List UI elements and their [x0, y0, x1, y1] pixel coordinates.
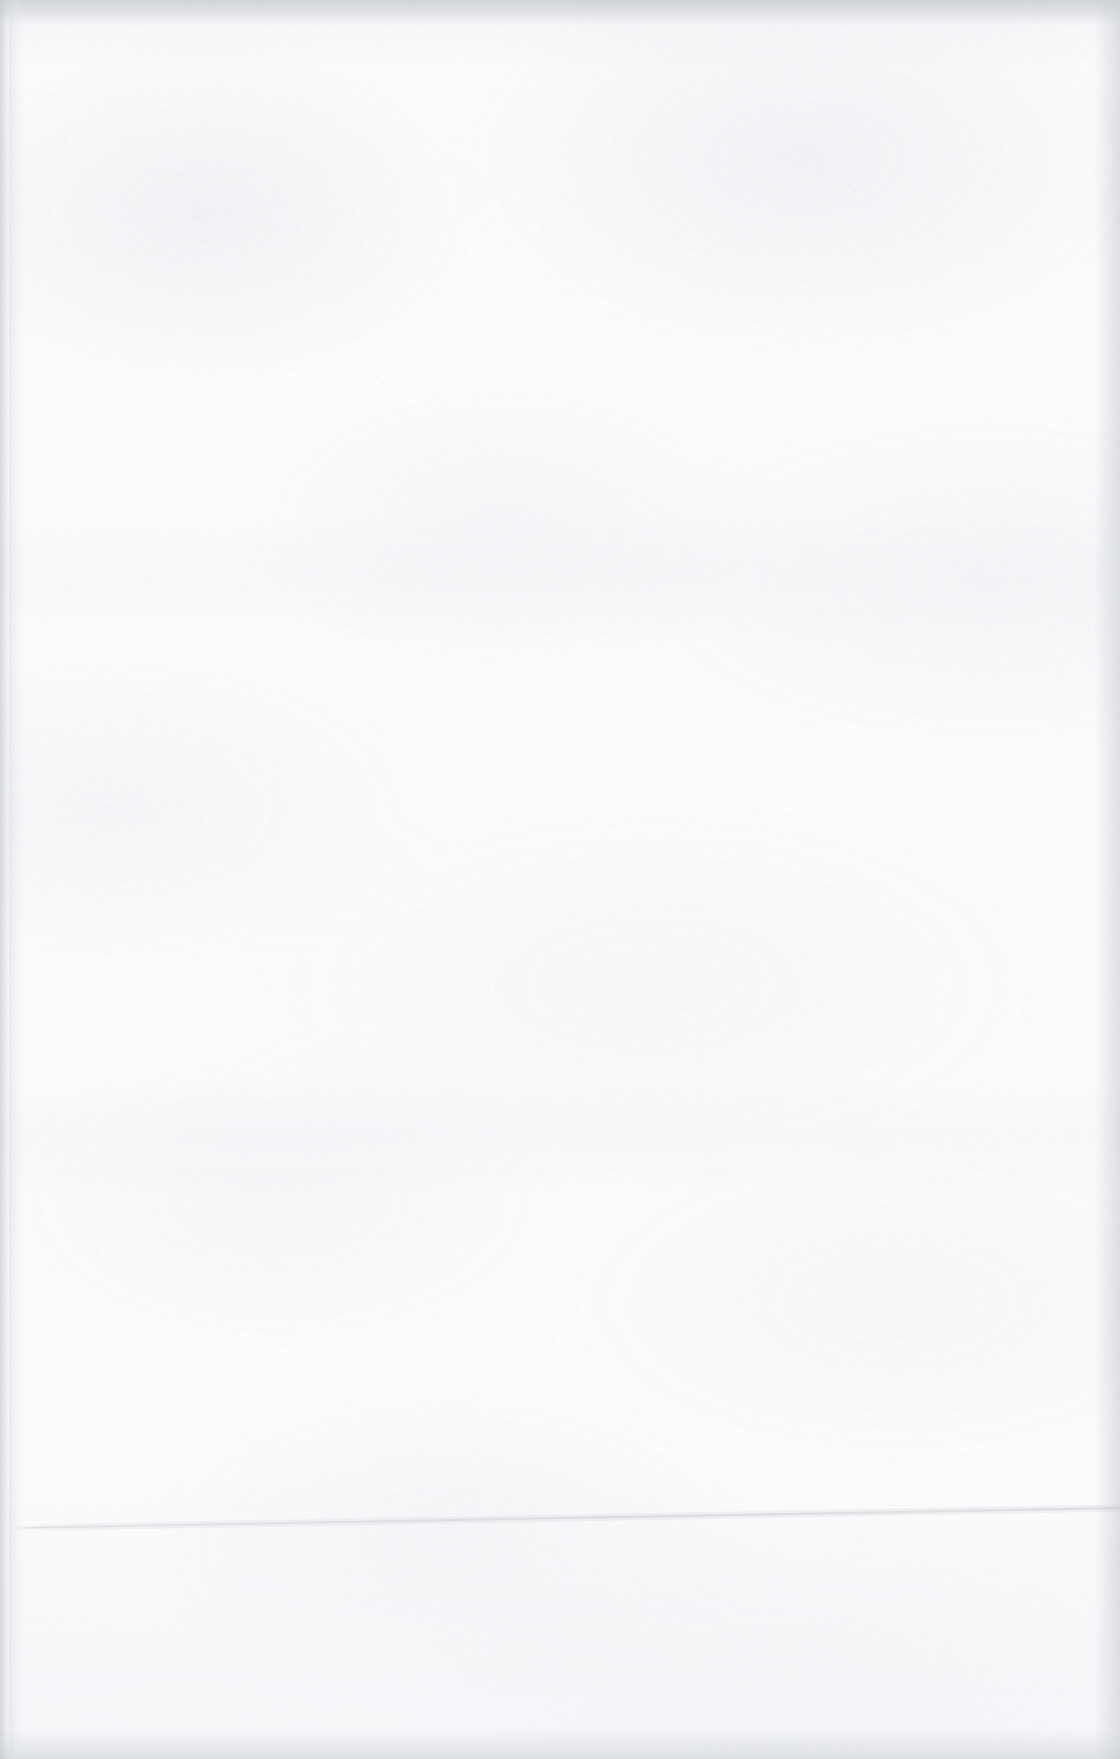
scanned-page	[0, 0, 1120, 1759]
paper-background	[0, 0, 1120, 1759]
